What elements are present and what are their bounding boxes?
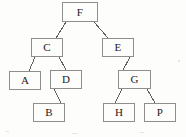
tree-node-h: H <box>103 103 135 122</box>
tree-edge-f-c <box>56 22 66 38</box>
tree-node-label: P <box>157 107 163 118</box>
tree-edge-f-e <box>94 22 108 38</box>
tree-edge-e-g <box>123 57 130 70</box>
tree-node-label: H <box>115 107 123 118</box>
tree-node-label: E <box>115 42 122 53</box>
tree-node-a: A <box>9 71 41 90</box>
tree-node-label: A <box>21 75 29 86</box>
tree-node-label: G <box>130 74 138 85</box>
tree-node-label: F <box>77 6 83 17</box>
scan-speck <box>140 132 144 133</box>
tree-edge-g-h <box>115 89 122 103</box>
tree-node-p: P <box>144 103 176 122</box>
binary-tree-diagram: FCEADGBHP <box>0 0 186 137</box>
scan-speck <box>178 60 180 62</box>
scan-speck <box>72 133 77 134</box>
tree-node-label: C <box>43 42 51 53</box>
tree-node-b: B <box>33 103 65 122</box>
scan-speck <box>6 131 9 132</box>
tree-node-label: D <box>62 74 70 85</box>
tree-node-e: E <box>102 38 134 57</box>
tree-edge-d-b <box>54 89 61 103</box>
tree-node-f: F <box>62 2 98 22</box>
tree-node-c: C <box>31 38 63 57</box>
tree-edge-c-a <box>29 57 35 71</box>
tree-edge-c-d <box>59 57 66 70</box>
tree-edge-g-p <box>147 89 155 103</box>
tree-node-d: D <box>50 70 82 89</box>
tree-node-g: G <box>118 70 151 89</box>
tree-node-label: B <box>45 107 53 118</box>
